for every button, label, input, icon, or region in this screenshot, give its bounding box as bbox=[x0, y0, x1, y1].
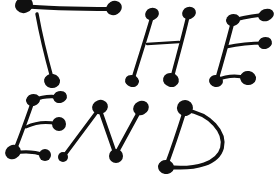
h-right-stem bbox=[172, 16, 188, 78]
n-valley-blob bbox=[109, 149, 123, 163]
e1-top-arm-blob bbox=[256, 7, 274, 24]
the-end-lettering bbox=[0, 0, 274, 174]
letter-n bbox=[58, 98, 151, 163]
n-right-diagonal bbox=[116, 110, 140, 154]
h-left-top-blob bbox=[143, 6, 160, 22]
h-left-bottom-blob bbox=[124, 73, 141, 88]
d-top-blob bbox=[175, 98, 196, 119]
t-crossbar bbox=[24, 6, 113, 9]
e2-middle-arm-blob bbox=[52, 117, 66, 131]
n-bottom-left-blob bbox=[58, 152, 68, 162]
d-spine bbox=[166, 110, 185, 166]
t-crossbar-left-blob bbox=[13, 0, 35, 15]
n-middle-diagonal bbox=[100, 110, 115, 153]
h-crossbar bbox=[147, 42, 179, 44]
drawing-canvas: THE END bbox=[0, 0, 274, 174]
letter-e-second bbox=[3, 89, 69, 161]
n-left-diagonal bbox=[64, 109, 99, 156]
e2-bottom-corner-blob bbox=[3, 142, 23, 161]
n-top-right-blob bbox=[131, 98, 151, 117]
t-stem-bottom-blob bbox=[43, 73, 61, 90]
letter-e-first bbox=[208, 7, 274, 88]
e1-bottom-corner-blob bbox=[208, 74, 224, 88]
t-stem bbox=[37, 14, 52, 78]
letter-d bbox=[157, 98, 223, 174]
e2-top-corner-blob bbox=[25, 92, 42, 107]
letter-h bbox=[124, 5, 198, 89]
t-crossbar-right-blob bbox=[104, 0, 125, 18]
e2-top-arm-blob bbox=[52, 89, 69, 104]
h-left-stem bbox=[133, 17, 152, 79]
e2-bottom-arm-blob bbox=[39, 149, 51, 161]
e1-bottom-arm-blob bbox=[239, 70, 257, 87]
h-right-top-blob bbox=[180, 5, 197, 21]
d-bottom-blob bbox=[157, 159, 175, 174]
e1-top-corner-blob bbox=[225, 12, 242, 27]
letter-t bbox=[13, 0, 124, 89]
e1-middle-arm-blob bbox=[257, 35, 274, 50]
e1-spine bbox=[217, 21, 233, 79]
n-apex-blob bbox=[90, 98, 110, 117]
h-right-bottom-blob bbox=[161, 71, 180, 89]
